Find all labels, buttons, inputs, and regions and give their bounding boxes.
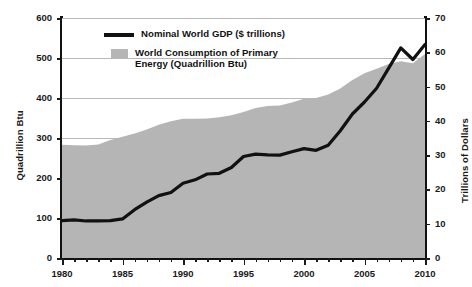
x-tick-label: 1985 [103, 268, 143, 279]
x-tick-mark-minor [159, 258, 161, 262]
x-tick-mark-major [183, 258, 185, 265]
x-tick-mark-minor [195, 258, 197, 262]
x-tick-label: 2005 [345, 268, 385, 279]
x-tick-mark-minor [171, 258, 173, 262]
y-tick-label-left: 600 [18, 12, 52, 23]
y-tick-label-right: 30 [435, 149, 469, 160]
line-swatch-icon [104, 33, 134, 37]
y-axis-left-title: Quadrillion Btu [14, 91, 25, 201]
x-tick-mark-minor [135, 258, 137, 262]
chart-legend: Nominal World GDP ($ trillions) World Co… [104, 28, 334, 77]
x-tick-mark-minor [74, 258, 76, 262]
x-tick-mark-minor [340, 258, 342, 262]
y-tick-label-right: 0 [435, 252, 469, 263]
x-tick-mark-minor [86, 258, 88, 262]
x-tick-mark-minor [292, 258, 294, 262]
x-tick-mark-minor [256, 258, 258, 262]
y-tick-mark-right [425, 87, 430, 89]
area-swatch-icon [111, 49, 128, 59]
x-tick-mark-minor [389, 258, 391, 262]
x-tick-mark-major [304, 258, 306, 265]
x-tick-label: 2000 [284, 268, 324, 279]
x-tick-label: 2010 [405, 268, 445, 279]
chart-container: Quadrillion Btu Trillions of Dollars 010… [0, 0, 472, 287]
x-tick-mark-major [62, 258, 64, 265]
x-tick-mark-major [123, 258, 125, 265]
legend-item-gdp: Nominal World GDP ($ trillions) [104, 28, 334, 40]
y-tick-mark-right [425, 155, 430, 157]
x-tick-mark-minor [98, 258, 100, 262]
x-tick-mark-minor [401, 258, 403, 262]
legend-label-gdp: Nominal World GDP ($ trillions) [141, 28, 285, 40]
legend-label-energy: World Consumption of Primary Energy (Qua… [135, 47, 278, 70]
x-tick-mark-minor [231, 258, 233, 262]
y-tick-label-left: 100 [18, 212, 52, 223]
x-tick-mark-minor [316, 258, 318, 262]
y-tick-mark-right [425, 121, 430, 123]
x-tick-label: 1990 [163, 268, 203, 279]
y-tick-mark-right [425, 224, 430, 226]
x-tick-mark-minor [110, 258, 112, 262]
x-tick-label: 1980 [42, 268, 82, 279]
x-tick-mark-minor [207, 258, 209, 262]
y-tick-mark-right [425, 189, 430, 191]
y-tick-mark-right [425, 18, 430, 20]
y-tick-mark-right [425, 52, 430, 54]
x-tick-label: 1995 [224, 268, 264, 279]
legend-label-energy-line2: Energy (Quadrillion Btu) [135, 58, 247, 69]
x-tick-mark-major [425, 258, 427, 265]
y-tick-label-right: 50 [435, 81, 469, 92]
x-tick-mark-minor [280, 258, 282, 262]
y-tick-label-right: 40 [435, 115, 469, 126]
x-tick-mark-minor [147, 258, 149, 262]
legend-item-energy: World Consumption of Primary Energy (Qua… [104, 47, 334, 70]
y-tick-label-right: 10 [435, 218, 469, 229]
y-tick-label-left: 400 [18, 92, 52, 103]
x-tick-mark-minor [413, 258, 415, 262]
x-tick-mark-minor [328, 258, 330, 262]
y-tick-label-right: 20 [435, 183, 469, 194]
x-tick-mark-minor [268, 258, 270, 262]
x-tick-mark-minor [377, 258, 379, 262]
y-tick-label-right: 70 [435, 12, 469, 23]
y-tick-label-left: 300 [18, 132, 52, 143]
x-tick-mark-minor [352, 258, 354, 262]
legend-label-energy-line1: World Consumption of Primary [135, 47, 278, 58]
x-tick-mark-minor [219, 258, 221, 262]
x-tick-mark-major [244, 258, 246, 265]
y-tick-label-left: 200 [18, 172, 52, 183]
x-tick-mark-major [365, 258, 367, 265]
y-tick-label-right: 60 [435, 46, 469, 57]
y-tick-label-left: 500 [18, 52, 52, 63]
y-tick-label-left: 0 [18, 252, 52, 263]
